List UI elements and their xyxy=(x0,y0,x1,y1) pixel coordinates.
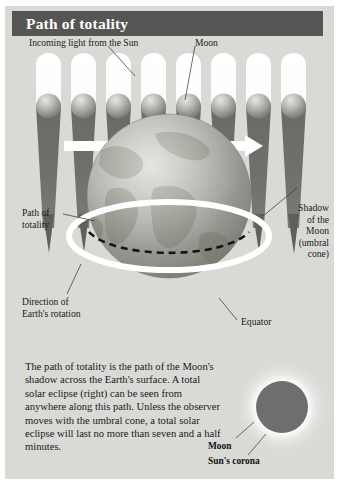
label-shadow-of-moon: Shadow of the Moon (umbral cone) xyxy=(255,202,329,260)
title-banner: Path of totality xyxy=(12,11,323,36)
page-title: Path of totality xyxy=(26,15,128,33)
eclipse-moon-disk xyxy=(256,381,308,433)
label-direction-of-rotation: Direction of Earth's rotation xyxy=(22,296,80,319)
label-photo-moon: Moon xyxy=(208,441,231,451)
label-moon-top: Moon xyxy=(195,37,218,49)
label-equator: Equator xyxy=(241,316,271,328)
figure-root: Path of totality xyxy=(0,0,339,495)
label-photo-corona: Sun's corona xyxy=(208,456,260,466)
label-incoming-light: Incoming light from the Sun xyxy=(29,37,138,49)
diagram-stage: Incoming light from the Sun Moon Path of… xyxy=(5,38,334,358)
eclipse-photo xyxy=(246,378,320,436)
label-path-of-totality: Path of totality xyxy=(22,207,49,230)
body-paragraph: The path of totality is the path of the … xyxy=(25,360,221,454)
